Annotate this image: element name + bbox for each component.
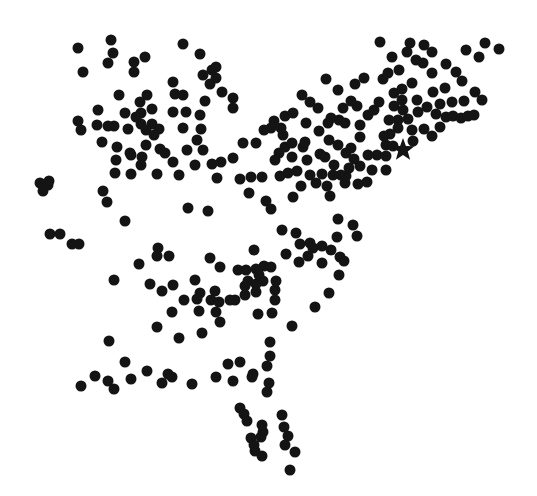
map-dot [211,62,222,73]
map-dot [212,173,223,184]
map-dot [174,170,185,181]
map-dot [196,124,207,135]
map-dot [244,188,255,199]
map-dot [238,138,249,149]
map-dot [381,165,392,176]
map-dot [240,290,251,301]
map-dot [183,203,194,214]
map-dot [168,280,179,291]
map-dot [43,180,54,191]
map-dot [413,107,424,118]
map-dot [355,120,366,131]
map-dot [181,107,192,118]
map-dot [111,155,122,166]
map-dot [106,35,117,46]
map-dot [233,265,244,276]
map-dot [333,214,344,225]
map-dot [228,153,239,164]
map-dot [112,142,123,153]
map-dot [338,103,349,114]
map-dot [387,52,398,63]
map-dot [295,239,306,250]
map-dot [334,270,345,281]
map-dot [305,170,316,181]
map-dot [287,138,298,149]
map-dot [461,45,472,56]
map-dot [296,181,307,192]
map-dot [367,165,378,176]
map-dot [407,125,418,136]
map-dot [190,160,201,171]
map-dot [98,186,109,197]
map-dot [355,132,366,143]
map-dot [329,160,340,171]
map-dot [352,101,363,112]
map-dot [152,322,163,333]
map-dot [195,49,206,60]
map-dot [440,83,451,94]
map-dot [266,123,277,134]
map-dot [168,77,179,88]
map-dot [290,447,301,458]
map-dot [160,148,171,159]
map-dot [451,67,462,78]
map-dot [494,44,505,55]
map-dot [291,228,302,239]
map-dot [142,366,153,377]
map-dot [55,229,66,240]
map-dot [140,52,151,63]
map-dot [192,294,203,305]
map-dot [341,148,352,159]
map-dot [326,245,337,256]
map-dot [271,276,282,287]
map-dot [195,110,206,121]
map-dot [324,135,335,146]
map-dot [253,309,264,320]
map-dot [419,124,430,135]
map-dot [477,95,488,106]
map-dot [157,378,168,389]
map-dot [315,149,326,160]
map-dot [152,251,163,262]
map-dot [262,361,273,372]
map-dot [265,351,276,362]
map-dot [108,48,119,59]
map-dot [235,357,246,368]
map-dot [448,111,459,122]
map-dot [266,262,277,273]
map-dot [203,206,214,217]
map-dot [441,59,452,70]
map-dot [235,174,246,185]
map-dot [249,245,260,256]
map-dot [408,136,419,147]
map-dot [333,85,344,96]
map-dot [334,115,345,126]
map-dot [385,129,396,140]
map-dot [170,89,181,100]
map-dot [292,166,303,177]
map-dot [381,151,392,162]
map-dot [145,279,156,290]
map-dot [428,87,439,98]
map-dot [179,295,190,306]
map-dot [223,359,234,370]
map-dot [469,110,480,121]
map-dot [178,123,189,134]
map-dot [411,55,422,66]
map-dot [275,171,286,182]
map-dot [120,108,131,119]
map-dot [246,172,257,183]
map-dot [435,122,446,133]
map-dot [134,259,145,270]
map-dot [474,52,485,63]
map-dot [129,57,140,68]
map-dot [459,96,470,107]
map-dot [102,197,113,208]
map-dot [277,225,288,236]
map-dot [167,372,178,383]
map-dot [187,379,198,390]
map-dot [287,152,298,163]
map-dot [182,145,193,156]
map-dot [352,231,363,242]
map-dot [317,169,328,180]
